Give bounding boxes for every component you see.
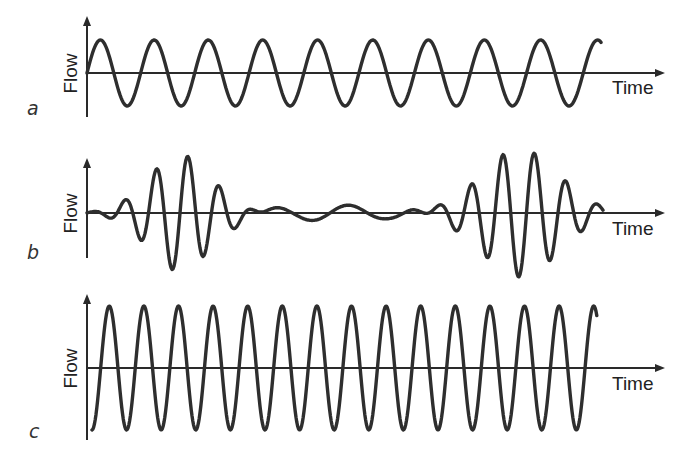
panel-a (83, 16, 665, 117)
panel-b-x-arrow-icon (655, 209, 665, 217)
panel-c-x-label: Time (612, 374, 654, 393)
panel-a-y-arrow-icon (83, 16, 91, 26)
panel-a-x-arrow-icon (655, 69, 665, 77)
panel-b-flow-wave (87, 153, 603, 277)
panel-c (83, 294, 665, 440)
panel-a-x-label: Time (612, 78, 654, 97)
panel-c-y-arrow-icon (83, 294, 91, 304)
panel-c-x-arrow-icon (655, 364, 665, 372)
panel-a-y-label: Flow (61, 53, 80, 93)
panel-a-letter: a (27, 97, 39, 119)
panel-c-y-label: Flow (61, 348, 80, 388)
panel-b-letter: b (27, 241, 39, 263)
flow-pattern-figure (0, 0, 685, 465)
panel-b-y-label: Flow (61, 193, 80, 233)
panel-b-y-arrow-icon (83, 158, 91, 168)
panel-c-letter: c (29, 420, 39, 442)
panel-b-x-label: Time (612, 219, 654, 238)
panel-b (83, 153, 665, 277)
